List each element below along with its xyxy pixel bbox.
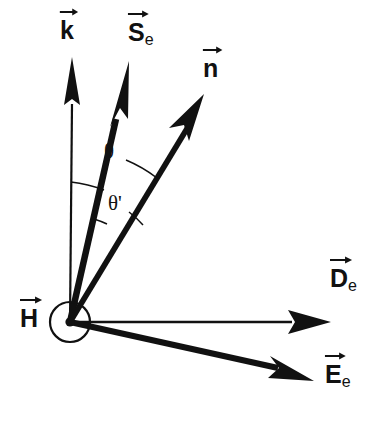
angle-label-theta: θ	[104, 141, 114, 162]
vector-d-e-arrowhead	[288, 310, 331, 334]
vector-k-arrowhead	[64, 57, 80, 105]
vector-e-e-shaft	[70, 322, 278, 368]
overarrow-h: H	[20, 306, 38, 331]
vector-label-s-e: S e	[128, 20, 154, 48]
h-out-of-page-dot	[65, 317, 74, 326]
vector-label-n: n	[203, 56, 218, 81]
vector-label-k: k	[60, 18, 74, 43]
vector-label-d-e: D e	[330, 266, 357, 294]
overarrow-k: k	[60, 18, 74, 43]
vector-s-e-arrowhead	[110, 61, 129, 127]
vector-label-h-base: H	[20, 304, 38, 332]
vector-label-d-e-base: D	[330, 264, 348, 292]
vector-label-s-e-sub: e	[145, 31, 154, 48]
angle-arc-theta	[71, 160, 157, 190]
angle-arc-theta-right	[126, 160, 157, 178]
vector-label-s-e-base: S	[128, 18, 145, 46]
vector-label-e-e-sub: e	[342, 373, 351, 390]
vector-n-shaft	[70, 127, 188, 322]
vector-label-n-base: n	[203, 54, 218, 82]
vector-label-d-e-sub: e	[348, 277, 357, 294]
vector-diagram-canvas	[0, 0, 371, 429]
vector-n	[70, 94, 204, 322]
overarrow-e: E	[325, 362, 342, 387]
angle-label-theta-prime: θ'	[108, 193, 122, 214]
overarrow-n: n	[203, 56, 218, 81]
vector-label-h: H	[20, 306, 38, 331]
vector-diagram: k S e n D e	[0, 0, 371, 429]
overarrow-d: D	[330, 266, 348, 291]
vector-label-k-base: k	[60, 16, 74, 44]
vector-e-e	[70, 322, 314, 381]
vector-label-e-e: E e	[325, 362, 351, 390]
vector-label-e-e-base: E	[325, 360, 342, 388]
vector-k-shaft	[70, 104, 72, 322]
overarrow-s: S	[128, 20, 145, 45]
